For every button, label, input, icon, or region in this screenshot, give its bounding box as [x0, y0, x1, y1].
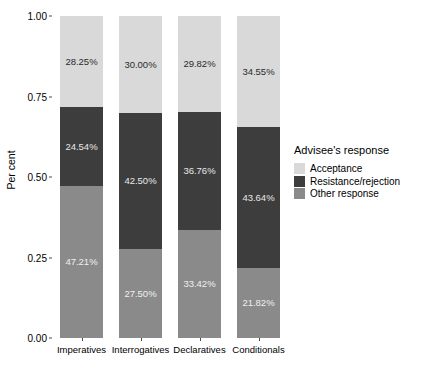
legend-item-label: Acceptance [310, 163, 362, 175]
bar-segment[interactable]: 30.00% [119, 16, 162, 113]
x-tick-slot: Conditionals [229, 338, 288, 368]
x-tick-slot: Imperatives [52, 338, 111, 368]
bar-segment[interactable]: 47.21% [60, 186, 103, 338]
legend-item[interactable]: Other response [294, 188, 422, 200]
bar-segment[interactable]: 27.50% [119, 249, 162, 338]
bar-segment-label: 36.76% [183, 166, 215, 176]
bar-segment[interactable]: 29.82% [178, 16, 221, 112]
bar-segment[interactable]: 36.76% [178, 112, 221, 230]
x-tick-label: Declaratives [173, 344, 225, 355]
y-tick-label: 0.00 [28, 333, 47, 344]
bar-slot: 28.25%24.54%47.21% [52, 16, 111, 338]
bar-slot: 29.82%36.76%33.42% [170, 16, 229, 338]
legend-item-label: Other response [310, 188, 379, 200]
y-axis: 0.000.250.500.751.00 [18, 16, 52, 338]
stacked-bar[interactable]: 34.55%43.64%21.82% [237, 16, 280, 338]
legend-items: AcceptanceResistance/rejectionOther resp… [294, 163, 422, 200]
bar-segment[interactable]: 43.64% [237, 127, 280, 268]
bar-segment-label: 47.21% [65, 257, 97, 267]
x-tick-slot: Interrogatives [111, 338, 170, 368]
bar-segment-label: 30.00% [124, 60, 156, 70]
bar-segment-label: 34.55% [242, 67, 274, 77]
legend-item-label: Resistance/rejection [310, 176, 400, 188]
stacked-bar-chart: Per cent 0.000.250.500.751.00 28.25%24.5… [0, 0, 425, 371]
plot-panel: 28.25%24.54%47.21%30.00%42.50%27.50%29.8… [52, 16, 288, 338]
bar-segment-label: 24.54% [65, 142, 97, 152]
stacked-bar[interactable]: 28.25%24.54%47.21% [60, 16, 103, 338]
x-tick-mark [82, 338, 83, 341]
x-tick-mark [259, 338, 260, 341]
legend-swatch [294, 176, 305, 187]
bar-segment[interactable]: 21.82% [237, 268, 280, 338]
bar-segment-label: 27.50% [124, 289, 156, 299]
bar-segment-label: 29.82% [183, 59, 215, 69]
stacked-bar[interactable]: 29.82%36.76%33.42% [178, 16, 221, 338]
legend-swatch [294, 188, 305, 199]
legend: Advisee's response AcceptanceResistance/… [294, 144, 422, 201]
bar-segment[interactable]: 34.55% [237, 16, 280, 127]
legend-item[interactable]: Acceptance [294, 163, 422, 175]
y-tick-label: 0.50 [28, 172, 47, 183]
x-axis: ImperativesInterrogativesDeclarativesCon… [52, 338, 288, 368]
x-tick-label: Interrogatives [112, 344, 170, 355]
bar-segment-label: 33.42% [183, 279, 215, 289]
bar-segment[interactable]: 33.42% [178, 230, 221, 338]
bar-segment-label: 43.64% [242, 193, 274, 203]
y-axis-title-label: Per cent [5, 150, 17, 189]
legend-title: Advisee's response [294, 144, 422, 156]
x-tick-label: Conditionals [232, 344, 284, 355]
bar-segment[interactable]: 24.54% [60, 107, 103, 186]
bar-segment[interactable]: 42.50% [119, 113, 162, 250]
bar-segment[interactable]: 28.25% [60, 16, 103, 107]
stacked-bar[interactable]: 30.00%42.50%27.50% [119, 16, 162, 338]
bar-segment-label: 42.50% [124, 176, 156, 186]
x-tick-label: Imperatives [57, 344, 106, 355]
x-tick-mark [141, 338, 142, 341]
bar-slot: 30.00%42.50%27.50% [111, 16, 170, 338]
x-tick-slot: Declaratives [170, 338, 229, 368]
x-tick-mark [200, 338, 201, 341]
y-tick-label: 1.00 [28, 11, 47, 22]
bar-group: 28.25%24.54%47.21%30.00%42.50%27.50%29.8… [52, 16, 288, 338]
y-tick-label: 0.25 [28, 252, 47, 263]
bar-segment-label: 21.82% [242, 298, 274, 308]
bar-slot: 34.55%43.64%21.82% [229, 16, 288, 338]
bar-segment-label: 28.25% [65, 57, 97, 67]
legend-swatch [294, 163, 305, 174]
legend-item[interactable]: Resistance/rejection [294, 176, 422, 188]
y-tick-label: 0.75 [28, 91, 47, 102]
